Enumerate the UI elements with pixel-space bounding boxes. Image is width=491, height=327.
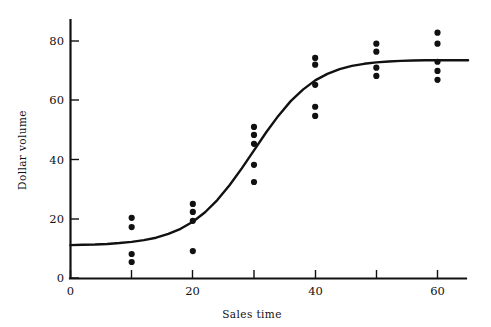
data-point <box>373 41 379 47</box>
data-point <box>434 68 440 74</box>
data-point <box>190 209 196 215</box>
data-point <box>312 62 318 68</box>
x-tick-label-40: 40 <box>308 284 323 298</box>
data-point <box>312 113 318 119</box>
data-point <box>434 59 440 65</box>
y-axis-title: Dollar volume <box>16 110 28 190</box>
data-point <box>190 218 196 224</box>
data-point <box>190 201 196 207</box>
x-tick-label-0: 0 <box>67 284 74 298</box>
data-point <box>129 215 135 221</box>
data-point <box>129 224 135 230</box>
data-point <box>312 82 318 88</box>
y-tick-label-60: 60 <box>49 93 64 107</box>
data-point <box>251 162 257 168</box>
data-point <box>434 77 440 83</box>
data-point <box>251 141 257 147</box>
chart-canvas: 0 20 40 60 80 0 20 40 60 Sales time Doll… <box>0 0 491 327</box>
data-point <box>373 65 379 71</box>
data-point <box>251 132 257 138</box>
data-point <box>251 124 257 130</box>
x-tick-label-20: 20 <box>185 284 200 298</box>
data-point <box>129 259 135 265</box>
x-axis-title: Sales time <box>222 308 282 320</box>
scatter-chart: 0 20 40 60 80 0 20 40 60 Sales time Doll… <box>0 0 491 327</box>
data-point <box>434 41 440 47</box>
data-point <box>312 55 318 61</box>
data-point <box>373 73 379 79</box>
data-point <box>434 30 440 36</box>
x-tick-marks <box>71 270 438 278</box>
axis-group <box>70 20 466 279</box>
x-tick-label-60: 60 <box>430 284 445 298</box>
data-point <box>129 251 135 257</box>
data-point <box>373 49 379 55</box>
data-point <box>190 248 196 254</box>
y-tick-label-20: 20 <box>49 212 64 226</box>
y-tick-label-80: 80 <box>49 34 64 48</box>
y-tick-label-0: 0 <box>57 271 64 285</box>
y-tick-label-40: 40 <box>49 153 64 167</box>
data-point <box>251 179 257 185</box>
data-point <box>312 104 318 110</box>
